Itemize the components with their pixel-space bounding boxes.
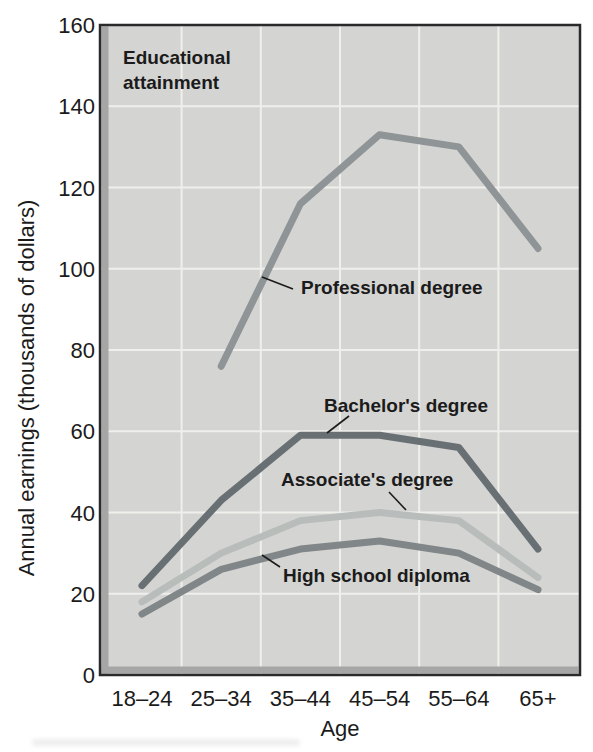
x-tick-label: 65+ [519, 686, 556, 711]
y-tick-label: 20 [71, 582, 95, 607]
x-tick-label: 18–24 [111, 686, 172, 711]
x-tick-label: 55–64 [428, 686, 489, 711]
y-tick-label: 60 [71, 419, 95, 444]
high-school-diploma-label: High school diploma [283, 565, 470, 586]
chart-inner-title-line2: attainment [123, 72, 220, 93]
y-axis-ticks: 020406080100120140160 [58, 13, 95, 688]
x-tick-label: 45–54 [349, 686, 410, 711]
y-axis-title: Annual earnings (thousands of dollars) [14, 200, 39, 577]
x-tick-label: 35–44 [270, 686, 331, 711]
line-chart: 020406080100120140160 18–2425–3435–4445–… [0, 0, 593, 752]
chart-inner-title-line1: Educational [123, 47, 231, 68]
professional-degree-label: Professional degree [301, 277, 483, 298]
x-tick-label: 25–34 [191, 686, 252, 711]
bachelors-degree-label: Bachelor's degree [324, 395, 488, 416]
associates-degree-label: Associate's degree [281, 469, 453, 490]
y-tick-label: 100 [58, 257, 95, 282]
y-tick-label: 0 [83, 663, 95, 688]
y-tick-label: 120 [58, 176, 95, 201]
scan-smudge-artifact [32, 739, 300, 746]
y-tick-label: 40 [71, 501, 95, 526]
left-bevel [102, 27, 109, 674]
earnings-by-education-figure: 020406080100120140160 18–2425–3435–4445–… [0, 0, 593, 752]
x-axis-title: Age [320, 716, 359, 741]
bottom-bevel [102, 667, 579, 674]
x-axis-ticks: 18–2425–3435–4445–5455–6465+ [111, 686, 556, 711]
y-tick-label: 80 [71, 338, 95, 363]
y-tick-label: 160 [58, 13, 95, 38]
y-tick-label: 140 [58, 94, 95, 119]
